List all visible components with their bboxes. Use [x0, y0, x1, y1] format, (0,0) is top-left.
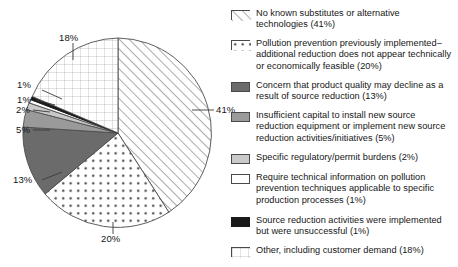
legend-label: Pollution prevention previously implemen…: [256, 38, 452, 72]
legend-label: Concern that product quality may decline…: [256, 80, 452, 103]
legend-item-no-known-substitutes: No known substitutes or alternative tech…: [231, 8, 452, 31]
slice-label-20: 20%: [101, 234, 120, 244]
swatch-black-icon: [231, 217, 250, 227]
legend-item-pollution-prevention: Pollution prevention previously implemen…: [231, 38, 452, 72]
legend-item-product-quality: Concern that product quality may decline…: [231, 80, 452, 103]
legend-item-regulatory-burdens: Specific regulatory/permit burdens (2%): [231, 152, 418, 164]
slice-label-1a: 1%: [17, 80, 31, 90]
swatch-medium-gray-icon: [231, 112, 250, 122]
legend-label: No known substitutes or alternative tech…: [256, 8, 452, 31]
swatch-dark-gray-icon: [231, 82, 250, 92]
figure-caption: [2, 260, 228, 267]
slice-label-13: 13%: [13, 175, 32, 185]
slice-label-2: 2%: [16, 105, 30, 115]
slice-label-5: 5%: [16, 125, 30, 135]
swatch-diagonal-hatch-icon: [231, 10, 250, 20]
legend-label: Source reduction activities were impleme…: [256, 215, 452, 238]
legend: No known substitutes or alternative tech…: [231, 4, 458, 263]
swatch-light-gray-icon: [231, 154, 250, 164]
pie-svg: [0, 0, 229, 267]
legend-label: Other, including customer demand (18%): [256, 245, 424, 256]
swatch-white-icon: [231, 174, 250, 184]
legend-label: Insufficient capital to install new sour…: [256, 110, 452, 144]
pie-chart-figure: 18% 1% 1% 2% 5% 13% 20% 41% No known sub…: [0, 0, 458, 267]
legend-item-other: Other, including customer demand (18%): [231, 245, 424, 257]
legend-item-technical-information: Require technical information on polluti…: [231, 172, 452, 206]
legend-label: Specific regulatory/permit burdens (2%): [256, 152, 418, 163]
legend-item-insufficient-capital: Insufficient capital to install new sour…: [231, 110, 452, 144]
swatch-dots-icon: [231, 40, 250, 50]
legend-item-unsuccessful: Source reduction activities were impleme…: [231, 215, 452, 238]
swatch-grid-icon: [231, 247, 250, 257]
pie-plot-area: 18% 1% 1% 2% 5% 13% 20% 41%: [0, 0, 229, 267]
legend-label: Require technical information on polluti…: [256, 172, 452, 206]
slice-label-18: 18%: [59, 33, 78, 43]
